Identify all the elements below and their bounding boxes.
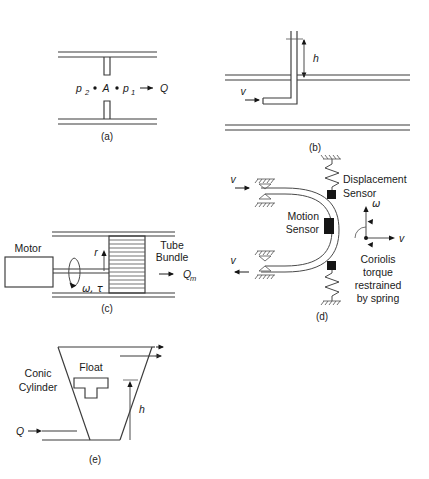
coriolis-note-line2: torque xyxy=(363,266,393,278)
p2-symbol: p xyxy=(75,82,82,94)
sensor-block-top xyxy=(327,190,336,199)
tube-bundle-label: Tube Bundle xyxy=(156,239,189,263)
pipe-lower-wall xyxy=(58,119,157,124)
motion-sensor-line1: Motion xyxy=(287,210,319,222)
pipe-lower-wall-c xyxy=(52,293,175,297)
tube-bundle-line2: Bundle xyxy=(156,251,189,263)
p1-subscript: 1 xyxy=(131,88,135,97)
conic-line1: Conic xyxy=(25,367,52,379)
tube-bundle xyxy=(109,236,145,293)
mass-flow-subscript: m xyxy=(190,274,196,283)
pipe-upper-wall-b xyxy=(225,75,410,80)
coriolis-note-line1: Coriolis xyxy=(360,253,395,265)
spring-top xyxy=(321,155,341,199)
coriolis-note-line4: by spring xyxy=(357,292,400,304)
panel-b-pitot-tube: h v (b) xyxy=(215,18,429,138)
float-label: Float xyxy=(79,361,102,373)
motion-sensor-label: Motion Sensor xyxy=(286,210,320,235)
velocity-label-top: v xyxy=(230,173,236,185)
flow-rate-label-e: Q xyxy=(16,425,24,437)
motor-label: Motor xyxy=(15,242,42,254)
velocity-label-bottom: v xyxy=(230,254,236,266)
radius-label: r xyxy=(94,246,98,258)
pivot-support-bottom xyxy=(255,251,275,279)
panel-d-coriolis-meter: v v xyxy=(215,143,429,323)
p2-subscript: 2 xyxy=(84,88,90,97)
coriolis-note: Coriolis torque restrained by spring xyxy=(355,253,402,304)
tap-dot-right xyxy=(115,86,118,89)
drive-shaft xyxy=(53,269,109,273)
velocity-label-b: v xyxy=(240,85,246,97)
panel-caption-d: (d) xyxy=(316,311,328,322)
displacement-sensor-line1: Displacement xyxy=(343,173,407,185)
velocity-arrow-b: v xyxy=(240,85,260,103)
coriolis-note-line3: restrained xyxy=(355,279,402,291)
pipe-upper-wall xyxy=(58,52,157,57)
orifice-plate-lower xyxy=(104,101,110,119)
float-body xyxy=(74,378,108,398)
sensor-block-bottom xyxy=(327,261,336,270)
height-dimension-e: h xyxy=(123,380,145,440)
tube-bundle-line1: Tube xyxy=(160,239,184,251)
velocity-arrow-top-d: v xyxy=(230,173,250,191)
panel-e-rotameter: Conic Cylinder Float h Q (e) xyxy=(0,325,215,479)
height-dimension-h: h xyxy=(302,39,319,78)
pressure-label-p1: p 1 xyxy=(122,82,135,97)
displacement-sensor-label: Displacement Sensor xyxy=(343,173,407,199)
inlet-flow-arrow: Q xyxy=(16,425,42,437)
omega-tau-label: ω, τ xyxy=(82,283,104,294)
panel-caption-c: (c) xyxy=(101,303,113,314)
motion-sensor-line2: Sensor xyxy=(286,223,320,235)
omega-axis-label: ω xyxy=(372,198,380,209)
pipe-lower-wall-b xyxy=(225,125,410,130)
flow-arrow-a xyxy=(140,85,153,90)
pitot-tube-body xyxy=(263,31,297,104)
conic-cylinder-label: Conic Cylinder xyxy=(19,367,58,393)
rotation-indicator: ω, τ xyxy=(69,258,104,294)
pipe-upper-wall-c xyxy=(52,232,175,236)
pivot-support-top xyxy=(255,179,275,207)
v-axis-label: v xyxy=(399,232,405,244)
conic-cylinder-body xyxy=(58,347,152,440)
inlet-pipe xyxy=(42,431,120,440)
panel-caption-e: (e) xyxy=(89,454,101,465)
mass-flow-arrow-c: Q m xyxy=(159,268,196,283)
conic-line2: Cylinder xyxy=(19,381,58,393)
figure-root: p 2 A p 1 Q (a) h xyxy=(0,0,429,479)
orifice-plate-upper xyxy=(104,57,110,75)
panel-a-orifice-plate: p 2 A p 1 Q (a) xyxy=(0,18,215,138)
panel-c-angular-momentum-meter: Motor ω, τ r Tube Bundle xyxy=(0,198,215,313)
coriolis-vector-diagram: ω v xyxy=(355,198,405,248)
velocity-arrow-bottom-d: v xyxy=(230,254,249,275)
orifice-area-label: A xyxy=(101,82,109,94)
height-label-b: h xyxy=(313,52,319,64)
motor-body xyxy=(5,257,53,287)
panel-caption-a: (a) xyxy=(101,131,113,142)
radius-arrow-r: r xyxy=(94,246,106,271)
flow-rate-label-a: Q xyxy=(160,82,168,94)
p1-symbol: p xyxy=(122,82,129,94)
height-label-e: h xyxy=(139,403,145,415)
tap-dot-left xyxy=(93,86,96,89)
sensor-block-motion xyxy=(324,218,334,234)
spring-bottom xyxy=(321,261,341,305)
pressure-label-p2: p 2 xyxy=(75,82,90,97)
